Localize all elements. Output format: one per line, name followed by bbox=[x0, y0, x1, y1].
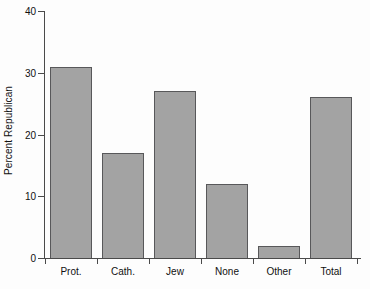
x-tick-label: Total bbox=[320, 266, 341, 277]
bar bbox=[154, 91, 196, 258]
y-tick-label: 30 bbox=[2, 67, 36, 78]
y-tick-label: 40 bbox=[2, 6, 36, 17]
y-tick-label: 20 bbox=[2, 129, 36, 140]
x-tick-label: Cath. bbox=[111, 266, 135, 277]
y-tick-mark bbox=[38, 135, 44, 136]
bar bbox=[50, 67, 92, 258]
x-tick-mark bbox=[305, 259, 306, 264]
bar bbox=[102, 153, 144, 258]
x-tick-label: Jew bbox=[166, 266, 184, 277]
x-tick-mark bbox=[201, 259, 202, 264]
y-axis-line bbox=[44, 11, 45, 258]
bar bbox=[206, 184, 248, 258]
x-tick-label: None bbox=[215, 266, 239, 277]
x-tick-mark bbox=[253, 259, 254, 264]
y-tick-mark bbox=[38, 258, 44, 259]
x-tick-mark bbox=[45, 259, 46, 264]
x-tick-label: Prot. bbox=[60, 266, 81, 277]
y-tick-mark bbox=[38, 11, 44, 12]
bar bbox=[258, 246, 300, 258]
y-tick-mark bbox=[38, 196, 44, 197]
y-tick-label: 0 bbox=[2, 253, 36, 264]
y-tick-mark bbox=[38, 73, 44, 74]
x-tick-mark bbox=[97, 259, 98, 264]
bar-chart: Percent Republican 010203040 Prot.Cath.J… bbox=[0, 0, 370, 289]
x-axis-line bbox=[44, 258, 361, 259]
y-tick-label: 10 bbox=[2, 191, 36, 202]
x-tick-label: Other bbox=[266, 266, 291, 277]
x-tick-mark bbox=[357, 259, 358, 264]
bar bbox=[310, 97, 352, 258]
x-tick-mark bbox=[149, 259, 150, 264]
